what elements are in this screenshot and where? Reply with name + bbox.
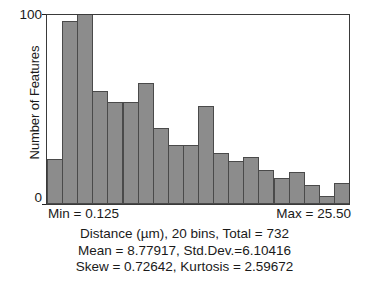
caption-line-distance: Distance (µm), 20 bins, Total = 732	[0, 226, 369, 243]
histogram-figure: Number of Features 100 0 Min = 0.125 Max…	[0, 0, 369, 294]
histogram-bar	[123, 102, 139, 204]
histogram-bar	[228, 161, 244, 204]
histogram-bar	[304, 185, 320, 204]
y-axis-label: Number of Features	[27, 13, 42, 193]
histogram-bar	[92, 91, 108, 204]
histogram-bar	[258, 170, 274, 204]
histogram-bar	[274, 178, 290, 204]
histogram-bar	[319, 196, 335, 204]
histogram-bar	[77, 14, 93, 204]
histogram-bar	[62, 21, 78, 204]
histogram-bar	[47, 159, 63, 204]
histogram-bar	[183, 145, 199, 204]
histogram-bar	[243, 157, 259, 204]
histogram-bar	[213, 153, 229, 204]
y-axis-tick-100: 100	[2, 7, 42, 22]
histogram-bar	[334, 183, 350, 204]
x-axis-max-label: Max = 25.50	[276, 206, 351, 221]
plot-area	[46, 14, 350, 205]
histogram-bars	[47, 15, 349, 204]
histogram-bar	[107, 102, 123, 204]
histogram-bar	[168, 145, 184, 204]
y-axis-tick-0: 0	[2, 190, 42, 205]
histogram-bar	[138, 83, 154, 204]
histogram-bar	[153, 128, 169, 204]
caption-line-mean: Mean = 8.77917, Std.Dev.=6.10416	[0, 243, 369, 260]
x-axis-min-label: Min = 0.125	[48, 206, 119, 221]
caption-line-skew: Skew = 0.72642, Kurtosis = 2.59672	[0, 259, 369, 276]
histogram-bar	[289, 172, 305, 204]
histogram-bar	[198, 106, 214, 204]
caption-block: Distance (µm), 20 bins, Total = 732 Mean…	[0, 226, 369, 276]
